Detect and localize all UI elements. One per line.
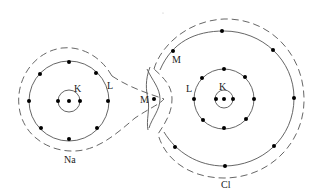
- na-outer-boundary-top: [112, 76, 164, 99]
- transfer-region: M: [140, 67, 160, 130]
- na-l-electron: [67, 137, 71, 141]
- na-l-electron: [94, 71, 98, 75]
- na-m-electron: [152, 97, 156, 101]
- cl-l-label: L: [186, 83, 192, 94]
- na-l-electron: [38, 72, 42, 76]
- na-l-label: L: [107, 80, 113, 91]
- na-k-electron: [78, 99, 82, 103]
- na-m-label: M: [140, 94, 149, 105]
- na-nucleus: [67, 99, 71, 103]
- speck: [162, 12, 163, 13]
- cl-m-electron: [272, 144, 276, 148]
- cl-l-electron: [244, 117, 248, 121]
- na-atom: K L Na: [19, 48, 164, 165]
- cl-outer-boundary: [154, 19, 304, 178]
- cl-l-electron: [192, 97, 196, 101]
- cl-m-electron: [173, 145, 177, 149]
- cl-atom-label: Cl: [221, 179, 231, 190]
- cl-k-electron: [214, 97, 218, 101]
- cl-m-electron: [220, 29, 224, 33]
- cl-l-electron: [201, 118, 205, 122]
- cl-atom: K L M Cl: [154, 19, 304, 190]
- na-l-electron: [27, 99, 31, 103]
- na-l-electron: [106, 99, 110, 103]
- na-l-electron: [39, 126, 43, 130]
- cl-m-electron: [171, 49, 175, 53]
- na-l-electron: [67, 60, 71, 64]
- cl-m-electron: [271, 48, 275, 52]
- cl-k-electron: [231, 97, 235, 101]
- cl-k-label: K: [219, 81, 227, 92]
- cl-l-electron: [222, 126, 226, 130]
- na-k-label: K: [74, 83, 82, 94]
- cl-m-electron: [292, 96, 296, 100]
- cl-m-electron: [223, 164, 227, 168]
- cl-l-electron: [222, 67, 226, 71]
- na-atom-label: Na: [64, 154, 76, 165]
- cl-l-electron: [243, 75, 247, 79]
- cl-nucleus: [222, 97, 226, 101]
- cl-m-label: M: [172, 54, 181, 65]
- cl-l-electron: [252, 97, 256, 101]
- na-k-electron: [56, 99, 60, 103]
- na-l-electron: [95, 126, 99, 130]
- cl-l-electron: [200, 76, 204, 80]
- nacl-electron-diagram: K L Na M: [0, 0, 319, 196]
